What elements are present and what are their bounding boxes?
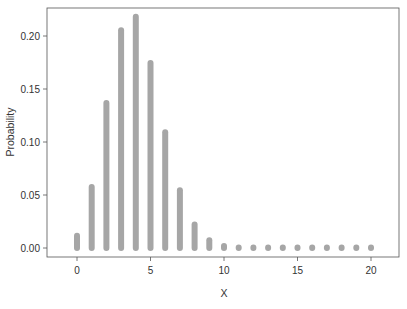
- y-axis: 0.000.050.100.150.20: [21, 31, 47, 254]
- y-axis-label: Probability: [4, 107, 16, 157]
- bars: [77, 17, 371, 248]
- x-axis: 05101520: [74, 257, 377, 276]
- x-tick-label: 5: [148, 265, 154, 276]
- x-tick-label: 20: [365, 265, 377, 276]
- y-tick-label: 0.05: [21, 190, 41, 201]
- y-tick-label: 0.10: [21, 137, 41, 148]
- x-tick-label: 0: [74, 265, 80, 276]
- plot-frame: [47, 8, 399, 257]
- x-axis-label: X: [220, 287, 227, 299]
- x-tick-label: 15: [292, 265, 304, 276]
- y-tick-label: 0.20: [21, 31, 41, 42]
- probability-chart: 0.000.050.100.150.20 05101520 X Probabil…: [0, 0, 407, 309]
- y-tick-label: 0.00: [21, 243, 41, 254]
- y-tick-label: 0.15: [21, 84, 41, 95]
- x-tick-label: 10: [218, 265, 230, 276]
